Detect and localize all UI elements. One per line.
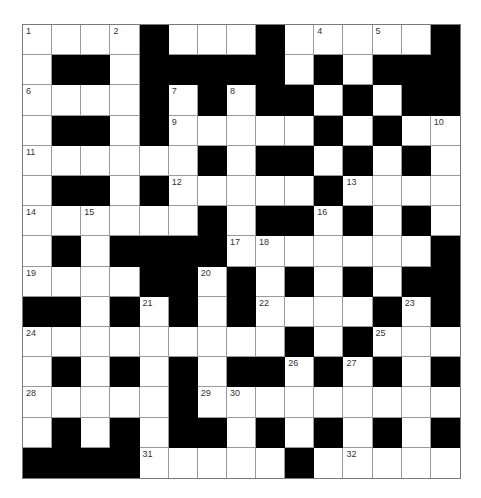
- grid-cell[interactable]: 5: [373, 25, 402, 55]
- grid-cell[interactable]: [81, 297, 110, 327]
- grid-cell[interactable]: 4: [314, 25, 343, 55]
- grid-cell[interactable]: [81, 418, 110, 448]
- grid-cell[interactable]: [169, 327, 198, 357]
- grid-cell[interactable]: [140, 146, 169, 176]
- grid-cell[interactable]: [198, 357, 227, 387]
- grid-cell[interactable]: 23: [402, 297, 431, 327]
- grid-cell[interactable]: [314, 387, 343, 417]
- grid-cell[interactable]: [198, 25, 227, 55]
- grid-cell[interactable]: [52, 267, 81, 297]
- grid-cell[interactable]: 31: [140, 448, 169, 478]
- grid-cell[interactable]: [285, 236, 314, 266]
- grid-cell[interactable]: [23, 357, 52, 387]
- grid-cell[interactable]: [373, 267, 402, 297]
- grid-cell[interactable]: [23, 418, 52, 448]
- grid-cell[interactable]: [343, 55, 372, 85]
- grid-cell[interactable]: [373, 387, 402, 417]
- grid-cell[interactable]: [110, 267, 139, 297]
- grid-cell[interactable]: [227, 146, 256, 176]
- grid-cell[interactable]: 14: [23, 206, 52, 236]
- grid-cell[interactable]: [373, 146, 402, 176]
- grid-cell[interactable]: 30: [227, 387, 256, 417]
- grid-cell[interactable]: [402, 357, 431, 387]
- grid-cell[interactable]: [227, 206, 256, 236]
- grid-cell[interactable]: [110, 116, 139, 146]
- grid-cell[interactable]: [227, 116, 256, 146]
- grid-cell[interactable]: 18: [256, 236, 285, 266]
- grid-cell[interactable]: [402, 418, 431, 448]
- grid-cell[interactable]: [227, 418, 256, 448]
- grid-cell[interactable]: 6: [23, 85, 52, 115]
- grid-cell[interactable]: [110, 327, 139, 357]
- grid-cell[interactable]: [169, 146, 198, 176]
- grid-cell[interactable]: [343, 236, 372, 266]
- grid-cell[interactable]: [285, 25, 314, 55]
- grid-cell[interactable]: 1: [23, 25, 52, 55]
- grid-cell[interactable]: [314, 85, 343, 115]
- grid-cell[interactable]: [81, 146, 110, 176]
- grid-cell[interactable]: [52, 327, 81, 357]
- grid-cell[interactable]: 13: [343, 176, 372, 206]
- grid-cell[interactable]: [52, 206, 81, 236]
- grid-cell[interactable]: [52, 85, 81, 115]
- grid-cell[interactable]: [314, 146, 343, 176]
- grid-cell[interactable]: [23, 55, 52, 85]
- grid-cell[interactable]: 9: [169, 116, 198, 146]
- grid-cell[interactable]: [431, 327, 460, 357]
- grid-cell[interactable]: 21: [140, 297, 169, 327]
- grid-cell[interactable]: [256, 327, 285, 357]
- grid-cell[interactable]: 11: [23, 146, 52, 176]
- grid-cell[interactable]: [23, 176, 52, 206]
- grid-cell[interactable]: [198, 297, 227, 327]
- grid-cell[interactable]: [314, 448, 343, 478]
- grid-cell[interactable]: [285, 418, 314, 448]
- grid-cell[interactable]: [314, 327, 343, 357]
- grid-cell[interactable]: 12: [169, 176, 198, 206]
- grid-cell[interactable]: [81, 236, 110, 266]
- grid-cell[interactable]: [169, 206, 198, 236]
- grid-cell[interactable]: [198, 448, 227, 478]
- grid-cell[interactable]: [110, 146, 139, 176]
- grid-cell[interactable]: [140, 206, 169, 236]
- grid-cell[interactable]: [256, 387, 285, 417]
- grid-cell[interactable]: [110, 55, 139, 85]
- grid-cell[interactable]: [402, 236, 431, 266]
- grid-cell[interactable]: [140, 327, 169, 357]
- grid-cell[interactable]: 17: [227, 236, 256, 266]
- grid-cell[interactable]: [402, 327, 431, 357]
- grid-cell[interactable]: [373, 236, 402, 266]
- grid-cell[interactable]: [314, 236, 343, 266]
- grid-cell[interactable]: [373, 206, 402, 236]
- grid-cell[interactable]: 15: [81, 206, 110, 236]
- grid-cell[interactable]: [431, 448, 460, 478]
- grid-cell[interactable]: [169, 448, 198, 478]
- grid-cell[interactable]: 10: [431, 116, 460, 146]
- grid-cell[interactable]: [285, 55, 314, 85]
- grid-cell[interactable]: [110, 387, 139, 417]
- grid-cell[interactable]: 20: [198, 267, 227, 297]
- grid-cell[interactable]: [81, 387, 110, 417]
- grid-cell[interactable]: [256, 267, 285, 297]
- grid-cell[interactable]: [285, 387, 314, 417]
- grid-cell[interactable]: [343, 25, 372, 55]
- grid-cell[interactable]: [140, 357, 169, 387]
- grid-cell[interactable]: [23, 236, 52, 266]
- grid-cell[interactable]: [227, 176, 256, 206]
- grid-cell[interactable]: [343, 116, 372, 146]
- grid-cell[interactable]: [314, 297, 343, 327]
- grid-cell[interactable]: [373, 448, 402, 478]
- grid-cell[interactable]: [81, 327, 110, 357]
- grid-cell[interactable]: 8: [227, 85, 256, 115]
- grid-cell[interactable]: [314, 267, 343, 297]
- grid-cell[interactable]: [227, 25, 256, 55]
- grid-cell[interactable]: 16: [314, 206, 343, 236]
- grid-cell[interactable]: 22: [256, 297, 285, 327]
- grid-cell[interactable]: [198, 327, 227, 357]
- grid-cell[interactable]: [81, 267, 110, 297]
- grid-cell[interactable]: 7: [169, 85, 198, 115]
- grid-cell[interactable]: [431, 387, 460, 417]
- grid-cell[interactable]: [285, 176, 314, 206]
- grid-cell[interactable]: [402, 116, 431, 146]
- grid-cell[interactable]: [373, 85, 402, 115]
- grid-cell[interactable]: [140, 387, 169, 417]
